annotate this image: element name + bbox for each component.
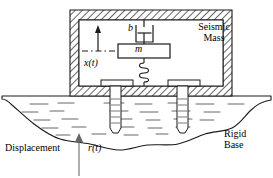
bolt-head-left xyxy=(101,80,133,86)
mass-block xyxy=(118,44,170,58)
bolt-head-right xyxy=(168,80,200,86)
seismic-mass-diagram: Seismic Mass Rigid Base Displacement r(t… xyxy=(0,0,273,178)
input-displacement-label: r(t) xyxy=(88,143,101,154)
seismic-mass-label-line2: Mass xyxy=(186,33,242,44)
displacement-label: Displacement xyxy=(5,143,60,154)
seismic-mass-label: Seismic Mass xyxy=(186,22,242,44)
rigid-base-label: Rigid Base xyxy=(224,129,272,151)
damper-label: b xyxy=(128,23,133,34)
input-displacement-arrow xyxy=(75,133,83,176)
mass-label: m xyxy=(135,44,142,55)
bolt-shaft-left xyxy=(110,86,121,133)
bolt-shaft-right xyxy=(177,86,188,133)
output-displacement-label: x(t) xyxy=(84,58,98,69)
mass-block-rect xyxy=(118,44,170,58)
rigid-base-label-line2: Base xyxy=(224,140,272,151)
